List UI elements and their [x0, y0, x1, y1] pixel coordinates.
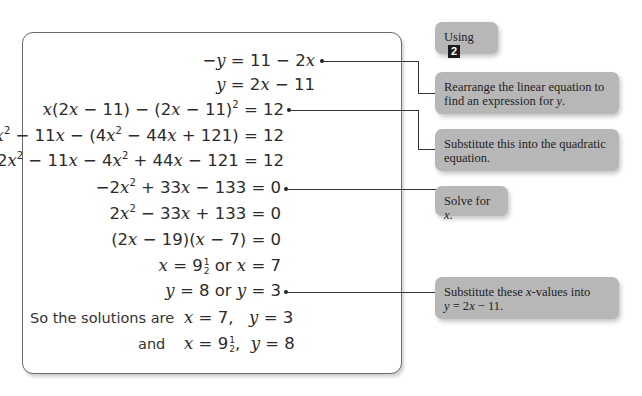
connector-line — [418, 61, 419, 94]
equation-line-11: x = 7, y = 3 — [184, 308, 293, 328]
connector-line — [322, 61, 419, 62]
connector-line — [286, 189, 436, 190]
equation-line-3: x(2x − 11) − (2x − 11)2 = 12 — [43, 100, 284, 120]
equation-line-2: y = 2x − 11 — [216, 75, 315, 95]
connector-line — [418, 93, 436, 94]
callout-rearrange: Rearrange the linear equation tofind an … — [435, 72, 619, 114]
callout-substitute-quadratic: Substitute this into the quadraticequati… — [435, 129, 619, 171]
equation-line-4: 2x2 − 11x − (4x2 − 44x + 121) = 12 — [0, 126, 284, 146]
step-number-badge: 2 — [448, 45, 460, 58]
connector-line — [418, 149, 436, 150]
equation-line-8: (2x − 19)(x − 7) = 0 — [111, 230, 281, 250]
equation-line-7: 2x2 − 33x + 133 = 0 — [110, 204, 281, 224]
callout-using: Using2 — [435, 22, 498, 54]
equation-line-6: −2x2 + 33x − 133 = 0 — [96, 178, 281, 198]
callout-solve: Solve for x. — [435, 186, 508, 216]
equation-line-9: x = 912 or x = 7 — [159, 256, 281, 276]
equation-line-12: x = 912, y = 8 — [184, 334, 295, 354]
connector-line — [286, 292, 436, 293]
equation-line-10: y = 8 or y = 3 — [165, 281, 281, 301]
connector-line — [418, 110, 419, 150]
connector-line — [289, 110, 419, 111]
equation-line-5: 2x2 − 11x − 4x2 + 44x − 121 = 12 — [0, 151, 284, 171]
equation-line-1: −y = 11 − 2x — [202, 51, 315, 71]
callout-using-text: Using — [444, 30, 474, 44]
callout-substitute-x-values: Substitute these x-values intoy = 2x − 1… — [435, 277, 619, 319]
solutions-label: So the solutions are — [30, 308, 174, 328]
and-label: and — [138, 334, 165, 354]
